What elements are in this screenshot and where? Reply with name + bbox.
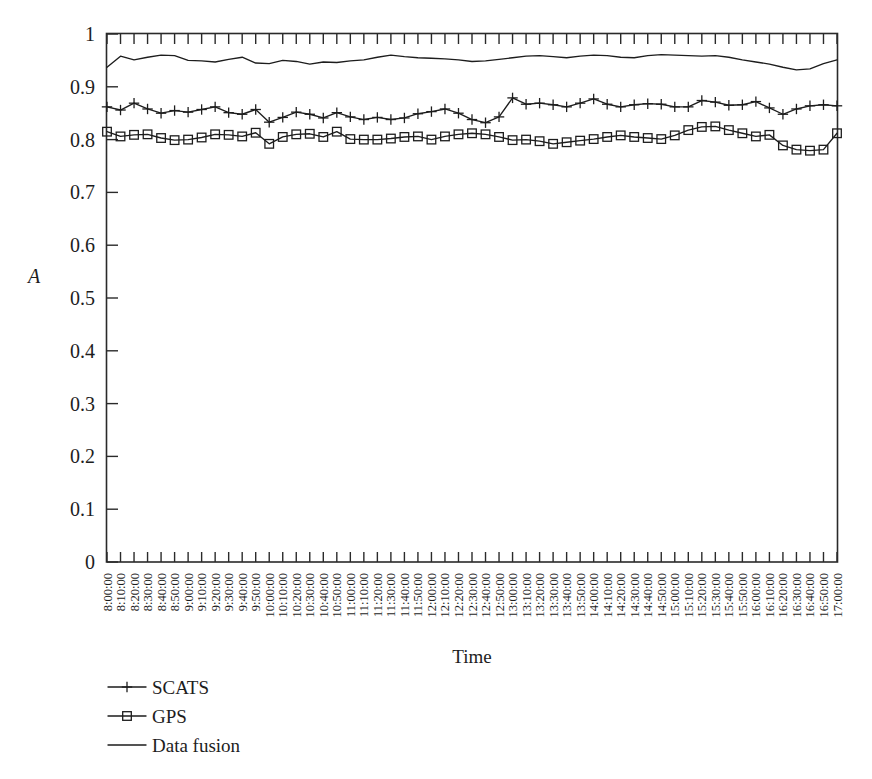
y-tick-label: 0.2 (70, 445, 95, 467)
x-tick-label: 14:00:00 (587, 573, 601, 617)
x-tick-label: 8:50:00 (168, 573, 182, 611)
x-tick-label: 15:50:00 (736, 573, 750, 617)
x-tick-label: 10:30:00 (303, 573, 317, 617)
x-tick-label: 13:30:00 (547, 573, 561, 617)
x-tick-label: 8:40:00 (155, 573, 169, 611)
x-tick-label: 12:30:00 (466, 573, 480, 617)
x-tick-label: 9:20:00 (209, 573, 223, 611)
x-tick-label: 13:20:00 (533, 573, 547, 617)
legend-label: Data fusion (152, 735, 241, 756)
x-tick-label: 14:30:00 (628, 573, 642, 617)
x-tick-label: 13:10:00 (520, 573, 534, 617)
x-tick-label: 15:30:00 (709, 573, 723, 617)
x-tick-label: 15:40:00 (722, 573, 736, 617)
x-axis-tick-labels: 8:00:008:10:008:20:008:30:008:40:008:50:… (101, 573, 845, 617)
y-tick-label: 0.3 (70, 393, 95, 415)
x-tick-label: 12:00:00 (425, 573, 439, 617)
y-tick-label: 0.8 (70, 129, 95, 151)
x-tick-label: 13:40:00 (560, 573, 574, 617)
y-tick-label: 0.1 (70, 498, 95, 520)
x-tick-label: 16:20:00 (776, 573, 790, 617)
x-tick-label: 11:10:00 (357, 573, 371, 617)
x-tick-label: 10:10:00 (276, 573, 290, 617)
x-tick-label: 16:10:00 (763, 573, 777, 617)
chart-figure: 00.10.20.30.40.50.60.70.80.91 8:00:008:1… (0, 0, 872, 779)
legend-label: GPS (152, 706, 187, 727)
x-tick-label: 11:00:00 (344, 573, 358, 617)
x-tick-label: 9:00:00 (182, 573, 196, 611)
y-tick-label: 0.9 (70, 76, 95, 98)
x-tick-label: 10:00:00 (263, 573, 277, 617)
x-tick-label: 16:40:00 (803, 573, 817, 617)
x-tick-label: 17:00:00 (831, 573, 845, 617)
x-tick-label: 14:50:00 (655, 573, 669, 617)
x-tick-label: 10:20:00 (290, 573, 304, 617)
y-axis-title: A (26, 265, 41, 287)
x-tick-label: 14:20:00 (614, 573, 628, 617)
x-tick-label: 12:20:00 (452, 573, 466, 617)
x-tick-label: 10:40:00 (317, 573, 331, 617)
x-tick-label: 14:40:00 (641, 573, 655, 617)
y-tick-label: 0.7 (70, 181, 95, 203)
y-tick-label: 0.4 (70, 340, 95, 362)
x-tick-label: 15:10:00 (682, 573, 696, 617)
x-tick-label: 8:20:00 (128, 573, 142, 611)
x-tick-label: 8:00:00 (101, 573, 115, 611)
x-tick-label: 16:50:00 (817, 573, 831, 617)
x-tick-label: 9:40:00 (236, 573, 250, 611)
x-tick-label: 9:50:00 (249, 573, 263, 611)
x-tick-label: 11:50:00 (411, 573, 425, 617)
x-tick-label: 8:30:00 (141, 573, 155, 611)
x-tick-label: 10:50:00 (330, 573, 344, 617)
y-tick-label: 0.5 (70, 287, 95, 309)
x-tick-label: 12:40:00 (479, 573, 493, 617)
x-tick-label: 12:50:00 (493, 573, 507, 617)
y-tick-label: 1 (85, 23, 95, 45)
x-tick-label: 14:10:00 (601, 573, 615, 617)
x-tick-label: 13:00:00 (506, 573, 520, 617)
x-tick-label: 12:10:00 (438, 573, 452, 617)
legend-label: SCATS (152, 677, 209, 698)
x-tick-label: 16:30:00 (790, 573, 804, 617)
x-tick-label: 9:10:00 (195, 573, 209, 611)
x-tick-label: 15:00:00 (668, 573, 682, 617)
chart-background (0, 0, 872, 779)
y-tick-label: 0 (85, 551, 95, 573)
x-tick-label: 9:30:00 (222, 573, 236, 611)
x-tick-label: 15:20:00 (695, 573, 709, 617)
x-tick-label: 11:30:00 (384, 573, 398, 617)
line-chart: 00.10.20.30.40.50.60.70.80.91 8:00:008:1… (0, 0, 872, 779)
x-tick-label: 11:20:00 (371, 573, 385, 617)
x-axis-title: Time (452, 646, 491, 667)
x-tick-label: 8:10:00 (114, 573, 128, 611)
y-tick-label: 0.6 (70, 234, 95, 256)
x-tick-label: 11:40:00 (398, 573, 412, 617)
x-tick-label: 16:00:00 (749, 573, 763, 617)
x-tick-label: 13:50:00 (574, 573, 588, 617)
